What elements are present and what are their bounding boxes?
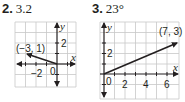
origin-label: 0 bbox=[50, 66, 56, 77]
y-axis-label: y bbox=[59, 20, 65, 32]
x-axis-label: x bbox=[172, 61, 178, 73]
origin-label: 0 bbox=[106, 76, 112, 87]
graph-problem-2: y x 2 −2 0 (−3, 1) bbox=[15, 20, 76, 87]
grid-lines bbox=[15, 22, 76, 87]
x-tick-label: −2 bbox=[31, 68, 43, 79]
x-tick-label-4: 4 bbox=[143, 79, 149, 90]
point-label: (−3, 1) bbox=[16, 43, 45, 54]
graph-problem-3: y x 2 0 2 4 6 (7, 3) bbox=[100, 21, 182, 99]
vector-arrow bbox=[104, 43, 177, 74]
point-label: (7, 3) bbox=[159, 26, 182, 37]
y-tick-label: 2 bbox=[61, 38, 67, 49]
vector-arrow bbox=[27, 54, 57, 64]
x-tick-label-2: 2 bbox=[122, 79, 128, 90]
y-axis-label: y bbox=[106, 21, 112, 33]
problem-number: 3. bbox=[92, 1, 103, 16]
problem-answer: 23° bbox=[106, 1, 124, 16]
x-tick-label-6: 6 bbox=[164, 79, 170, 90]
problem-3-header: 3.23° bbox=[92, 1, 124, 17]
x-axis-label: x bbox=[70, 51, 76, 63]
y-tick-label: 2 bbox=[107, 48, 113, 59]
